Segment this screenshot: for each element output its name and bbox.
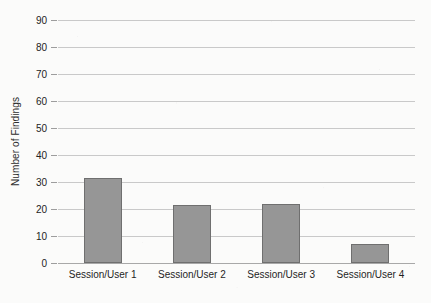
- y-tick-mark: [51, 20, 57, 21]
- y-tick-label: 70: [36, 69, 47, 80]
- y-tick-mark: [51, 236, 57, 237]
- y-tick-label: 90: [36, 15, 47, 26]
- y-tick-label: 80: [36, 42, 47, 53]
- y-tick-label: 10: [36, 231, 47, 242]
- gridline: [58, 74, 415, 75]
- y-tick-mark: [51, 74, 57, 75]
- gridline: [58, 155, 415, 156]
- gridline: [58, 20, 415, 21]
- y-tick-label: 60: [36, 96, 47, 107]
- bar: [173, 205, 211, 263]
- x-axis-label: Session/User 3: [247, 269, 315, 280]
- gridline: [58, 47, 415, 48]
- y-tick-label: 40: [36, 150, 47, 161]
- plot-area: 9080706050403020100: [58, 20, 415, 263]
- x-axis-label: Session/User 4: [336, 269, 404, 280]
- x-axis-label: Session/User 1: [69, 269, 137, 280]
- bar-chart: Number of Findings 9080706050403020100 S…: [0, 0, 431, 303]
- y-tick-label: 50: [36, 123, 47, 134]
- y-tick-mark: [51, 128, 57, 129]
- y-axis-title: Number of Findings: [8, 0, 24, 283]
- y-tick-mark: [51, 182, 57, 183]
- y-tick-mark: [51, 209, 57, 210]
- bar: [262, 204, 300, 263]
- x-axis-label: Session/User 2: [158, 269, 226, 280]
- bar: [351, 244, 389, 263]
- y-tick-mark: [51, 101, 57, 102]
- y-tick-label: 30: [36, 177, 47, 188]
- bar: [84, 178, 122, 263]
- gridline: [58, 128, 415, 129]
- y-axis-title-label: Number of Findings: [11, 97, 22, 186]
- y-tick-mark: [51, 263, 57, 264]
- y-tick-mark: [51, 155, 57, 156]
- y-tick-label: 0: [41, 258, 47, 269]
- y-tick-mark: [51, 47, 57, 48]
- y-tick-label: 20: [36, 204, 47, 215]
- gridline: [58, 101, 415, 102]
